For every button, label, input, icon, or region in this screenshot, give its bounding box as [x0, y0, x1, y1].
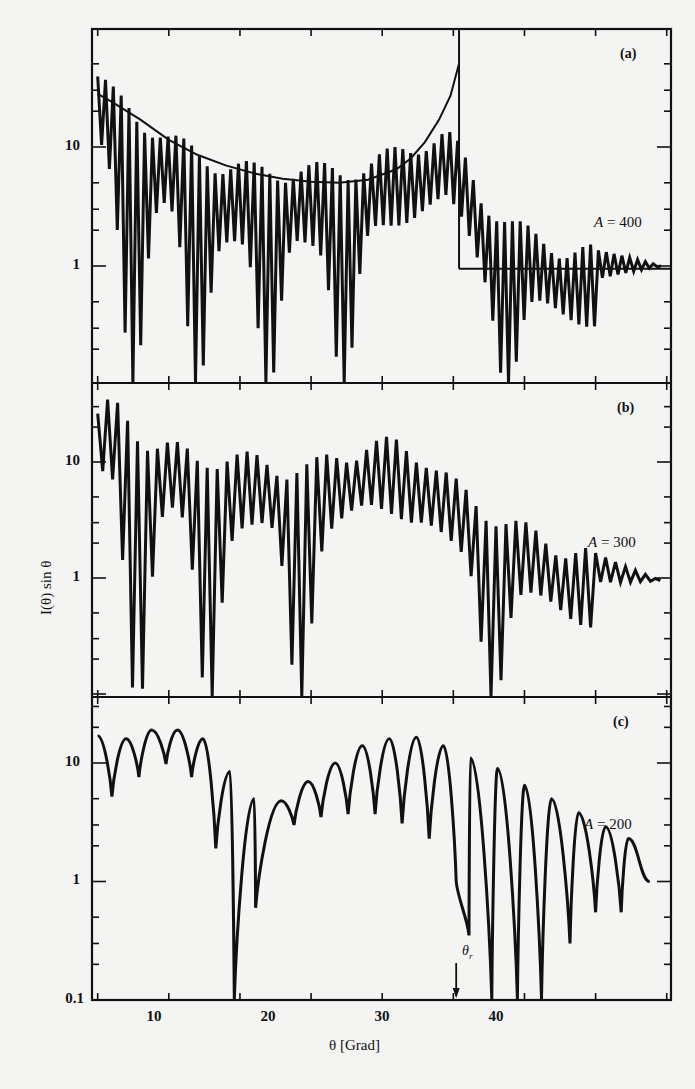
- panel-b-mass-label: A = 300: [588, 534, 636, 551]
- panel-a-mass-label: A = 400: [594, 214, 642, 231]
- mass-value: = 400: [603, 214, 641, 230]
- panel-c-label: (c): [613, 714, 629, 730]
- mass-symbol: A: [588, 534, 597, 550]
- panel-a-label: (a): [620, 46, 636, 62]
- panel-a-ytick-1: 1: [40, 256, 80, 273]
- mass-value: = 200: [593, 816, 631, 832]
- panel-b-oscillating-curve: [98, 400, 661, 696]
- panel-a-ytick-10: 10: [40, 137, 80, 154]
- panel-b-ytick-10: 10: [40, 452, 80, 469]
- panel-c-ytick-10: 10: [40, 753, 80, 770]
- annotations: [453, 963, 460, 998]
- rainbow-angle-label: θr: [462, 943, 472, 961]
- panel-c-oscillating-curve: [98, 730, 650, 999]
- panel-a-oscillating-curve: [98, 77, 661, 383]
- mass-value: = 300: [597, 534, 635, 550]
- y-axis-title: I(θ) sin θ: [38, 561, 55, 615]
- theta-symbol: θ: [462, 943, 469, 958]
- theta-subscript: r: [469, 951, 473, 961]
- mass-symbol: A: [584, 816, 593, 832]
- xtick-30: 30: [362, 1008, 402, 1025]
- panel-c-ytick-1: 1: [40, 871, 80, 888]
- panel-b-label: (b): [617, 400, 634, 416]
- xtick-20: 20: [248, 1008, 288, 1025]
- panel-c-ytick-0.1: 0.1: [44, 990, 84, 1007]
- panel-c-mass-label: A = 200: [584, 816, 632, 833]
- data-curves: [98, 29, 671, 999]
- x-axis-title: θ [Grad]: [329, 1037, 380, 1054]
- xtick-10: 10: [134, 1008, 174, 1025]
- xtick-40: 40: [476, 1008, 516, 1025]
- mass-symbol: A: [594, 214, 603, 230]
